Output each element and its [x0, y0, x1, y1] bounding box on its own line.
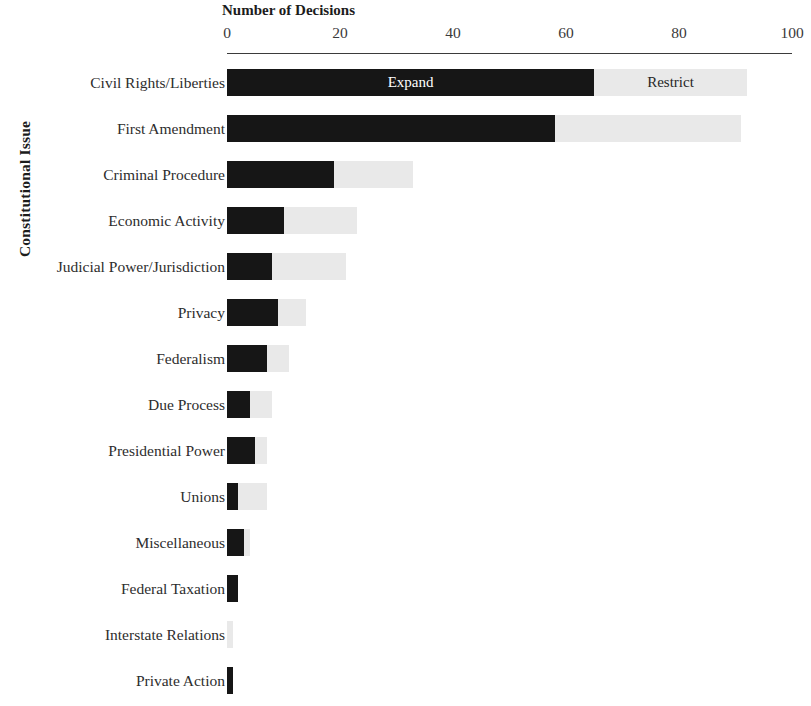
bar-segment-expand: [227, 207, 284, 234]
chart-container: Constitutional Issue Number of Decisions…: [0, 0, 811, 706]
x-tick-label: 20: [332, 24, 348, 42]
category-label: Criminal Procedure: [103, 152, 225, 198]
plot-area: Civil Rights/LibertiesExpandRestrictFirs…: [0, 60, 811, 706]
x-axis-line: [227, 53, 792, 54]
category-label: Presidential Power: [108, 428, 225, 474]
chart-row: Interstate Relations: [0, 612, 811, 658]
bar-segment-restrict: [334, 161, 413, 188]
bar-segment-restrict: [227, 621, 233, 648]
chart-row: Economic Activity: [0, 198, 811, 244]
category-label: Unions: [180, 474, 225, 520]
bar-segment-restrict: [238, 483, 266, 510]
chart-row: Miscellaneous: [0, 520, 811, 566]
category-label: Interstate Relations: [105, 612, 225, 658]
bar-segment-expand: [227, 575, 238, 602]
stacked-bar: [227, 345, 289, 372]
category-label: Miscellaneous: [135, 520, 225, 566]
stacked-bar: [227, 253, 346, 280]
bar-segment-expand: [227, 345, 267, 372]
bar-segment-restrict: [250, 391, 273, 418]
stacked-bar: [227, 483, 267, 510]
x-tick-label: 60: [558, 24, 574, 42]
bar-segment-restrict: [255, 437, 266, 464]
chart-row: Federalism: [0, 336, 811, 382]
bar-segment-expand: [227, 161, 334, 188]
chart-row: Presidential Power: [0, 428, 811, 474]
category-label: Economic Activity: [108, 198, 225, 244]
bar-segment-expand: [227, 253, 272, 280]
category-label: Due Process: [148, 382, 225, 428]
category-label: First Amendment: [117, 106, 225, 152]
chart-row: Federal Taxation: [0, 566, 811, 612]
chart-row: Private Action: [0, 658, 811, 704]
category-label: Judicial Power/Jurisdiction: [57, 244, 225, 290]
stacked-bar: [227, 667, 233, 694]
stacked-bar: [227, 391, 272, 418]
chart-row: Privacy: [0, 290, 811, 336]
chart-row: Civil Rights/LibertiesExpandRestrict: [0, 60, 811, 106]
x-tick-label: 100: [780, 24, 803, 42]
stacked-bar: [227, 207, 357, 234]
series-inline-label: Expand: [388, 69, 434, 96]
chart-row: Due Process: [0, 382, 811, 428]
chart-row: Unions: [0, 474, 811, 520]
bar-segment-expand: [227, 115, 555, 142]
x-tick-label: 80: [671, 24, 687, 42]
stacked-bar: [227, 621, 233, 648]
chart-row: Criminal Procedure: [0, 152, 811, 198]
x-axis-title: Number of Decisions: [222, 2, 355, 19]
bar-segment-restrict: [284, 207, 357, 234]
stacked-bar: [227, 529, 250, 556]
stacked-bar: [227, 161, 413, 188]
stacked-bar: [227, 437, 267, 464]
bar-segment-expand: [227, 437, 255, 464]
category-label: Civil Rights/Liberties: [90, 60, 225, 106]
chart-row: First Amendment: [0, 106, 811, 152]
bar-segment-expand: [227, 391, 250, 418]
stacked-bar: [227, 575, 238, 602]
bar-segment-restrict: [555, 115, 741, 142]
x-tick-label: 0: [223, 24, 231, 42]
bar-segment-expand: [227, 483, 238, 510]
bar-segment-restrict: [244, 529, 250, 556]
category-label: Private Action: [136, 658, 225, 704]
bar-segment-expand: [227, 667, 233, 694]
stacked-bar: ExpandRestrict: [227, 69, 747, 96]
series-inline-label: Restrict: [647, 69, 694, 96]
x-axis-tick-labels: 020406080100: [0, 24, 811, 46]
chart-row: Judicial Power/Jurisdiction: [0, 244, 811, 290]
stacked-bar: [227, 115, 741, 142]
stacked-bar: [227, 299, 306, 326]
bar-segment-expand: [227, 299, 278, 326]
bar-segment-restrict: [267, 345, 290, 372]
category-label: Privacy: [178, 290, 225, 336]
category-label: Federal Taxation: [121, 566, 225, 612]
category-label: Federalism: [156, 336, 225, 382]
bar-segment-expand: [227, 529, 244, 556]
bar-segment-restrict: [278, 299, 306, 326]
bar-segment-restrict: [272, 253, 345, 280]
x-tick-label: 40: [445, 24, 461, 42]
